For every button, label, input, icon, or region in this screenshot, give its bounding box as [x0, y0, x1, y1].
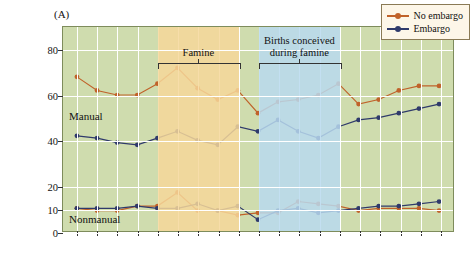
y-tick-label: 40 — [48, 136, 59, 147]
chart-figure: (A) Mild mental retardation (rate/1000) … — [0, 0, 476, 267]
births-conceived-label: during famine — [270, 47, 329, 58]
gridline-horizontal — [63, 141, 453, 142]
legend: No embargo Embargo — [381, 4, 470, 40]
births-conceived-label: Births conceived — [264, 35, 335, 46]
y-tick-mark — [58, 187, 63, 188]
y-tick-mark — [58, 141, 63, 142]
y-tick-label: 60 — [48, 90, 59, 101]
y-tick-mark — [58, 50, 63, 51]
gridline-horizontal — [63, 210, 453, 211]
series-lines — [63, 27, 453, 231]
famine-brace-stem — [198, 59, 199, 63]
famine-brace — [158, 63, 241, 69]
y-tick-label: 10 — [48, 205, 59, 216]
births-conceived-brace-stem — [299, 59, 300, 63]
gridline-vertical — [340, 27, 341, 231]
gridline-vertical — [441, 27, 442, 231]
plot-area: 01020406080ManualNonmanualFamineBirths c… — [62, 26, 454, 232]
gridline-horizontal — [63, 50, 453, 51]
y-axis-title: Mild mental retardation (rate/1000) — [2, 52, 18, 222]
y-tick-label: 20 — [48, 182, 59, 193]
legend-item-embargo: Embargo — [387, 22, 463, 35]
legend-swatch-embargo — [387, 23, 409, 34]
panel-label: (A) — [54, 8, 69, 20]
gridline-vertical — [401, 27, 402, 231]
y-tick-mark — [58, 233, 63, 234]
gridline-vertical — [380, 27, 381, 231]
nonmanual-group-label: Nonmanual — [69, 213, 120, 225]
gridline-horizontal — [63, 96, 453, 97]
y-tick-mark — [58, 96, 63, 97]
y-tick-mark — [58, 210, 63, 211]
gridline-vertical — [117, 27, 118, 231]
legend-swatch-no-embargo — [387, 10, 409, 21]
gridline-vertical — [97, 27, 98, 231]
series-line — [77, 104, 439, 145]
y-tick-label: 80 — [48, 44, 59, 55]
gridline-vertical — [360, 27, 361, 231]
gridline-horizontal — [63, 233, 453, 234]
gridline-horizontal — [63, 187, 453, 188]
gridline-vertical — [421, 27, 422, 231]
births-conceived-brace — [259, 63, 342, 69]
legend-label-no-embargo: No embargo — [413, 10, 463, 21]
legend-item-no-embargo: No embargo — [387, 9, 463, 22]
gridline-vertical — [239, 27, 240, 231]
manual-group-label: Manual — [69, 110, 103, 122]
series-line — [77, 68, 439, 113]
legend-label-embargo: Embargo — [413, 23, 449, 34]
gridline-vertical — [77, 27, 78, 231]
gridline-vertical — [138, 27, 139, 231]
famine-label: Famine — [183, 47, 215, 58]
